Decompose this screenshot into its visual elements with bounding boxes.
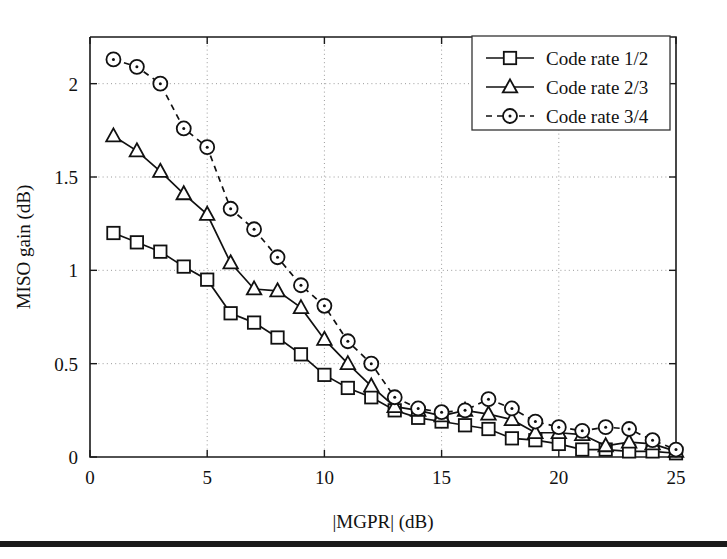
marker-circle-center <box>323 304 326 307</box>
marker-square <box>459 419 471 431</box>
x-tick-label: 20 <box>549 467 568 488</box>
marker-circle-center <box>487 398 490 401</box>
y-tick-label: 0 <box>69 447 79 468</box>
marker-square <box>365 391 377 403</box>
marker-square <box>224 307 236 319</box>
page-bottom-rule <box>0 541 727 547</box>
marker-square <box>576 443 588 455</box>
legend-entry-3[interactable]: Code rate 3/4 <box>486 106 649 127</box>
marker-square <box>154 245 166 257</box>
marker-circle-center <box>651 439 654 442</box>
legend[interactable]: Code rate 1/2Code rate 2/3Code rate 3/4 <box>472 36 670 130</box>
marker-circle-center <box>464 409 467 412</box>
marker-square <box>178 260 190 272</box>
marker-square <box>295 348 307 360</box>
x-tick-label: 10 <box>315 467 334 488</box>
marker-circle-center <box>299 284 302 287</box>
x-tick-label: 15 <box>432 467 451 488</box>
marker-circle-center <box>276 256 279 259</box>
marker-circle-center <box>675 448 678 451</box>
y-tick-label: 0.5 <box>54 354 78 375</box>
x-tick-label: 25 <box>667 467 686 488</box>
marker-circle-center <box>159 82 162 85</box>
figure-container: 0510152025 00.511.52 |MGPR| (dB) MISO ga… <box>0 0 727 559</box>
marker-circle-center <box>417 407 420 410</box>
marker-square <box>248 316 260 328</box>
y-tick-label: 1 <box>69 260 79 281</box>
marker-circle-center <box>393 396 396 399</box>
marker-circle-center <box>534 420 537 423</box>
marker-square <box>482 423 494 435</box>
marker-circle-center <box>370 362 373 365</box>
legend-label-1: Code rate 1/2 <box>546 48 648 69</box>
marker-circle-center <box>604 426 607 429</box>
marker-circle-center <box>628 428 631 431</box>
marker-circle-center <box>581 429 584 432</box>
marker-circle-center <box>206 146 209 149</box>
marker-circle-center <box>112 58 115 61</box>
marker-circle-center <box>510 407 513 410</box>
marker-circle-center <box>182 127 185 130</box>
marker-circle-center <box>346 340 349 343</box>
marker-square <box>553 438 565 450</box>
marker-circle-center <box>557 426 560 429</box>
marker-circle-center <box>253 228 256 231</box>
marker-circle-center <box>135 65 138 68</box>
y-tick-label: 2 <box>69 74 79 95</box>
marker-square <box>504 52 516 64</box>
marker-square <box>131 236 143 248</box>
legend-label-3: Code rate 3/4 <box>546 106 649 127</box>
marker-square <box>342 382 354 394</box>
miso-gain-chart: 0510152025 00.511.52 |MGPR| (dB) MISO ga… <box>0 0 727 559</box>
legend-label-2: Code rate 2/3 <box>546 77 648 98</box>
marker-circle-center <box>509 115 512 118</box>
x-axis-title: |MGPR| (dB) <box>332 511 433 533</box>
x-tick-label: 5 <box>202 467 212 488</box>
x-tick-label: 0 <box>85 467 95 488</box>
marker-circle-center <box>440 411 443 414</box>
marker-circle-center <box>229 207 232 210</box>
marker-square <box>271 331 283 343</box>
marker-square <box>318 369 330 381</box>
marker-square <box>201 273 213 285</box>
marker-square <box>506 432 518 444</box>
y-axis-title: MISO gain (dB) <box>13 185 35 310</box>
marker-square <box>107 227 119 239</box>
y-tick-label: 1.5 <box>54 167 78 188</box>
